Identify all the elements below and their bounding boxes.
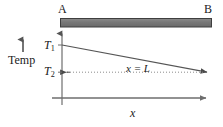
t2-subscript: 2 (51, 70, 55, 79)
bar-end-label-a: A (58, 3, 67, 15)
x-axis-label: x (130, 107, 135, 119)
temp-axis-label: Temp (8, 54, 35, 66)
bar-end-label-b: B (204, 3, 212, 15)
t1-symbol: T (44, 38, 51, 52)
temperature-label-t1: T1 (44, 39, 55, 53)
length-marker-label: x = L (126, 63, 150, 74)
temperature-label-t2: T2 (44, 65, 55, 79)
conducting-bar (61, 19, 212, 28)
thermal-conduction-diagram: A B T1 T2 x = L x Temp (0, 0, 223, 127)
t1-subscript: 1 (51, 44, 55, 53)
t2-symbol: T (44, 64, 51, 78)
